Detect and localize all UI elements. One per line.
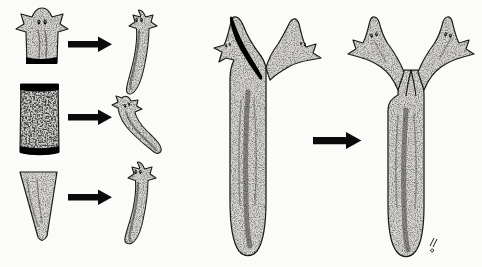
cut-mark-icon: [20, 84, 59, 92]
middle-piece-fragment: [20, 84, 59, 155]
figure-canvas: [0, 0, 482, 267]
regeneration-figure: Planarian regeneration diagram Three tra…: [0, 0, 482, 267]
